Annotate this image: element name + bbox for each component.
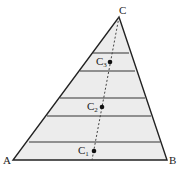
point-c3	[108, 60, 113, 65]
triangle-diagram: C A B C3 C2 C1	[0, 0, 187, 177]
triangle-abc	[13, 17, 167, 160]
vertex-label-b: B	[169, 154, 176, 166]
point-c1	[92, 149, 97, 154]
point-c2	[100, 105, 105, 110]
vertex-label-a: A	[3, 154, 11, 166]
vertex-label-c: C	[119, 4, 126, 16]
